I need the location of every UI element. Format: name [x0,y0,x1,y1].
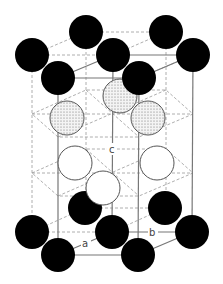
atom-white [58,146,92,180]
atom-black [41,238,75,272]
atom-black [15,38,49,72]
atom-black [175,215,209,249]
bottom-layer-atoms-front [15,215,209,272]
atom-dotted [50,101,84,135]
atom-black [95,215,129,249]
crystal-structure-diagram: c a b [0,0,223,284]
atom-black [176,38,210,72]
atom-black [41,61,75,95]
atom-black [148,191,182,225]
axis-label-a: a [82,238,88,249]
atom-black [15,215,49,249]
atom-black [69,15,103,49]
atom-black [149,15,183,49]
axis-label-c: c [109,144,115,155]
atom-white [86,171,120,205]
atom-dotted [131,101,165,135]
atom-black [96,38,130,72]
atom-black [121,238,155,272]
axis-label-b: b [149,227,155,238]
atom-black [122,61,156,95]
atom-white [140,146,174,180]
